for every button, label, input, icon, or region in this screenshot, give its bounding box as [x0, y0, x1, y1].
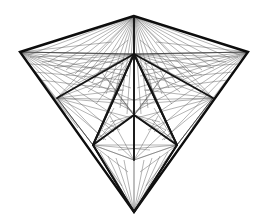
geometric-artwork-canvas: [0, 0, 266, 224]
canvas-background: [0, 0, 266, 224]
